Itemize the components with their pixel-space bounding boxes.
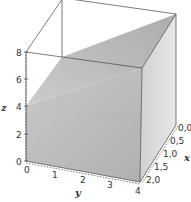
y-tick-0: 0 <box>24 165 30 175</box>
x-tick-1-0: 1,0 <box>163 149 178 159</box>
y-tick-2: 2 <box>80 175 86 185</box>
x-tick-0-5: 0,5 <box>170 136 184 146</box>
z-tick-0: 0 <box>16 157 22 167</box>
x-tick-1-5: 1,5 <box>154 162 168 172</box>
y-tick-3: 3 <box>107 180 113 190</box>
z-tick-4: 4 <box>16 102 22 112</box>
z-tick-6: 6 <box>16 75 22 85</box>
x-tick-2-0: 2,0 <box>146 175 161 185</box>
z-axis-label: z <box>0 102 7 113</box>
z-tick-2: 2 <box>16 130 22 140</box>
x-tick-0-0: 0,0 <box>178 123 191 133</box>
y-tick-1: 1 <box>52 170 58 180</box>
x-axis-label: x <box>183 152 191 163</box>
z-tick-8: 8 <box>16 48 22 58</box>
3d-plot: 8 6 4 2 0 z 0 1 2 3 4 y 0,0 0,5 1,0 1,5 … <box>0 0 191 202</box>
y-tick-4: 4 <box>135 186 141 196</box>
y-axis-label: y <box>74 187 82 198</box>
